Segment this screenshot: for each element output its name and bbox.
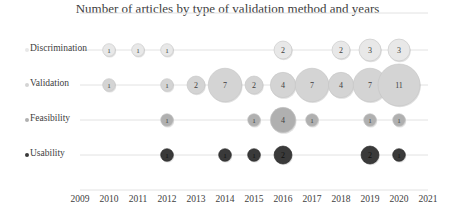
x-tick-label: 2010 bbox=[100, 194, 119, 204]
bubble-feasibility-2012: 1 bbox=[161, 114, 174, 128]
svg-text:7: 7 bbox=[310, 81, 314, 90]
bubble-discrimination-2020: 3 bbox=[388, 39, 411, 62]
svg-text:1: 1 bbox=[165, 152, 169, 160]
bubble-usability-2015: 1 bbox=[248, 149, 261, 163]
svg-text:1: 1 bbox=[310, 117, 314, 125]
svg-text:1: 1 bbox=[252, 152, 256, 160]
legend-label-discrimination: Discrimination bbox=[30, 43, 87, 53]
svg-text:1: 1 bbox=[397, 117, 401, 125]
svg-text:2: 2 bbox=[194, 81, 198, 90]
legend-marker-feasibility-icon bbox=[25, 118, 29, 122]
bubble-discrimination-2019: 3 bbox=[359, 39, 382, 62]
svg-text:4: 4 bbox=[339, 81, 343, 90]
bubble-validation-2018: 4 bbox=[328, 72, 354, 99]
svg-text:1: 1 bbox=[368, 117, 372, 125]
legend-label-validation: Validation bbox=[30, 78, 69, 88]
bubble-usability-2019: 2 bbox=[361, 146, 380, 165]
legend-label-usability: Usability bbox=[30, 148, 65, 158]
x-tick-label: 2017 bbox=[303, 194, 322, 204]
svg-text:3: 3 bbox=[368, 46, 372, 55]
legend-marker-discrimination-icon bbox=[25, 48, 29, 52]
bubble-usability-2012: 1 bbox=[161, 149, 174, 163]
svg-text:2: 2 bbox=[281, 46, 285, 55]
bubble-discrimination-2012: 1 bbox=[161, 44, 174, 58]
svg-text:2: 2 bbox=[368, 151, 372, 160]
svg-text:1: 1 bbox=[165, 47, 169, 55]
bubble-feasibility-2019: 1 bbox=[364, 114, 377, 128]
svg-text:1: 1 bbox=[397, 152, 401, 160]
svg-text:4: 4 bbox=[281, 116, 285, 125]
svg-text:7: 7 bbox=[368, 81, 372, 90]
svg-text:3: 3 bbox=[397, 46, 401, 55]
bubble-discrimination-2010: 1 bbox=[103, 44, 116, 58]
bubble-discrimination-2011: 1 bbox=[132, 44, 145, 58]
svg-text:7: 7 bbox=[223, 81, 227, 90]
svg-text:1: 1 bbox=[107, 82, 111, 90]
x-tick-label: 2013 bbox=[187, 194, 206, 204]
svg-text:2: 2 bbox=[339, 46, 343, 55]
x-tick-label: 2021 bbox=[419, 194, 438, 204]
svg-text:1: 1 bbox=[165, 117, 169, 125]
bubble-feasibility-2020: 1 bbox=[393, 114, 406, 128]
legend-marker-usability-icon bbox=[25, 153, 29, 157]
bubble-feasibility-2015: 1 bbox=[248, 114, 261, 128]
svg-text:1: 1 bbox=[107, 47, 111, 55]
bubble-validation-2013: 2 bbox=[187, 76, 206, 95]
bubble-validation-2010: 1 bbox=[103, 79, 116, 93]
svg-text:1: 1 bbox=[252, 117, 256, 125]
bubble-usability-2014: 1 bbox=[219, 149, 232, 163]
x-tick-label: 2009 bbox=[71, 194, 90, 204]
bubble-usability-2020: 1 bbox=[393, 149, 406, 163]
svg-text:1: 1 bbox=[165, 82, 169, 90]
x-tick-label: 2014 bbox=[216, 194, 235, 204]
x-tick-label: 2020 bbox=[390, 194, 409, 204]
bubble-validation-2020: 11 bbox=[378, 64, 421, 107]
svg-text:11: 11 bbox=[395, 81, 403, 90]
bubble-validation-2017: 7 bbox=[295, 68, 329, 103]
bubble-chart-plot: 111223311272474711114111111221 bbox=[0, 0, 455, 212]
svg-text:4: 4 bbox=[281, 81, 285, 90]
x-tick-label: 2016 bbox=[274, 194, 293, 204]
x-tick-label: 2018 bbox=[332, 194, 351, 204]
bubble-discrimination-2016: 2 bbox=[274, 41, 293, 60]
svg-text:1: 1 bbox=[223, 152, 227, 160]
x-tick-label: 2011 bbox=[129, 194, 148, 204]
bubble-validation-2014: 7 bbox=[208, 68, 242, 103]
svg-text:2: 2 bbox=[281, 151, 285, 160]
bubble-validation-2012: 1 bbox=[161, 79, 174, 93]
svg-text:1: 1 bbox=[136, 47, 140, 55]
x-tick-label: 2012 bbox=[158, 194, 177, 204]
x-tick-label: 2015 bbox=[245, 194, 264, 204]
bubble-validation-2016: 4 bbox=[270, 72, 296, 99]
bubble-discrimination-2018: 2 bbox=[332, 41, 351, 60]
bubble-feasibility-2016: 4 bbox=[270, 107, 296, 134]
x-tick-label: 2019 bbox=[361, 194, 380, 204]
bubble-usability-2016: 2 bbox=[274, 146, 293, 165]
bubble-validation-2015: 2 bbox=[245, 76, 264, 95]
svg-text:2: 2 bbox=[252, 81, 256, 90]
bubble-feasibility-2017: 1 bbox=[306, 114, 319, 128]
legend-marker-validation-icon bbox=[25, 83, 29, 87]
legend-label-feasibility: Feasibility bbox=[30, 113, 70, 123]
